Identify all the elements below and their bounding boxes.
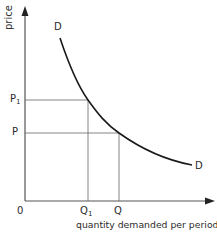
curve-label-end: D xyxy=(195,161,203,171)
curve-label-start: D xyxy=(54,22,62,32)
demand-diagram xyxy=(0,0,217,233)
demand-curve xyxy=(60,38,192,165)
x-axis-label: quantity demanded per period xyxy=(76,220,217,229)
price-label-p1: P1 xyxy=(10,94,21,106)
price-label-p: P xyxy=(12,127,18,139)
origin-label: 0 xyxy=(17,206,23,216)
quantity-label-q1: Q1 xyxy=(80,206,92,218)
y-axis-arrow-icon xyxy=(22,6,29,16)
x-axis-arrow-icon xyxy=(205,198,215,205)
y-axis-label: price xyxy=(3,5,14,30)
quantity-label-q: Q xyxy=(114,206,122,218)
